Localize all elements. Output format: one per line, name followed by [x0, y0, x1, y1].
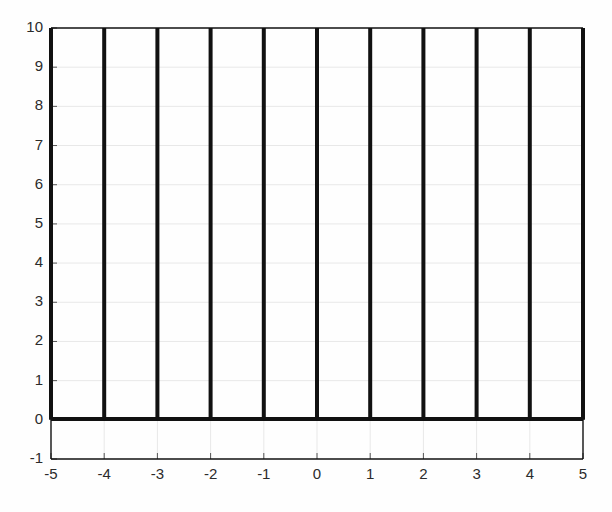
- y-tick-label: 10: [26, 18, 43, 35]
- y-tick-label: 5: [35, 214, 43, 231]
- x-tick-label: 2: [419, 465, 427, 482]
- x-tick-label: 4: [526, 465, 534, 482]
- y-tick-label: 0: [35, 410, 43, 427]
- y-tick-label: 9: [35, 57, 43, 74]
- x-tick-label: 1: [366, 465, 374, 482]
- y-tick-label: 6: [35, 175, 43, 192]
- y-tick-label: -1: [30, 449, 43, 466]
- x-tick-label: -3: [151, 465, 164, 482]
- y-tick-label: 2: [35, 331, 43, 348]
- y-tick-label: 7: [35, 136, 43, 153]
- chart-page: -5-4-3-2-1012345 -1012345678910: [0, 0, 612, 512]
- x-tick-label: -1: [257, 465, 270, 482]
- x-tick-label: -2: [204, 465, 217, 482]
- y-tick-label: 1: [35, 371, 43, 388]
- x-tick-label: 3: [472, 465, 480, 482]
- impulse-plot: -5-4-3-2-1012345 -1012345678910: [0, 0, 612, 512]
- x-tick-label: 0: [313, 465, 321, 482]
- x-tick-label: -5: [44, 465, 57, 482]
- plot-background: [0, 0, 612, 512]
- x-tick-label: -4: [98, 465, 111, 482]
- y-tick-label: 3: [35, 292, 43, 309]
- y-tick-label: 8: [35, 96, 43, 113]
- x-tick-label: 5: [579, 465, 587, 482]
- y-tick-label: 4: [35, 253, 43, 270]
